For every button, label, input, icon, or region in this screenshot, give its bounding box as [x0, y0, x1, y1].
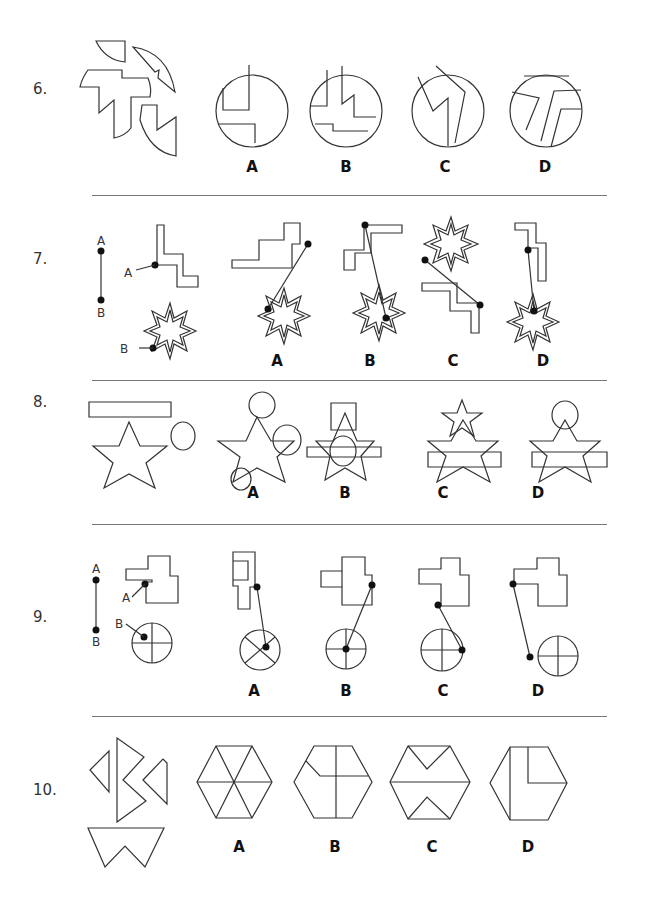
- q8-option-d-label[interactable]: D: [532, 484, 544, 502]
- q8-option-c-label[interactable]: C: [437, 484, 448, 502]
- q9-option-c: [419, 558, 469, 671]
- legend-label-b: B: [92, 635, 100, 649]
- q10-option-d: [490, 747, 567, 820]
- q7-source-shapes: A B: [120, 225, 198, 359]
- q6-pieces: [80, 41, 176, 156]
- svg-text:B: B: [115, 617, 123, 631]
- q9-option-a: [233, 552, 280, 670]
- q7-option-d-label[interactable]: D: [537, 352, 549, 370]
- q6-option-d-label[interactable]: D: [539, 158, 551, 176]
- q9-source-shapes: A B: [115, 556, 178, 663]
- q7-option-c-label[interactable]: C: [447, 352, 458, 370]
- q8-option-b-label[interactable]: B: [339, 484, 350, 502]
- q10-option-c-label[interactable]: C: [426, 838, 437, 856]
- svg-text:B: B: [120, 342, 128, 356]
- q10-option-a: [197, 746, 272, 818]
- q7-option-b: [344, 222, 405, 342]
- q9-option-c-label[interactable]: C: [437, 682, 448, 700]
- q10-pieces: [88, 738, 167, 867]
- q9-option-b-label[interactable]: B: [340, 682, 351, 700]
- legend-label-a: A: [97, 234, 106, 248]
- q7-option-a-label[interactable]: A: [271, 352, 283, 370]
- q7-option-a: [232, 223, 312, 344]
- q8-source-shapes: [89, 402, 195, 488]
- q8-option-a: [218, 392, 301, 490]
- q10-option-d-label[interactable]: D: [522, 838, 534, 856]
- q10-option-a-label[interactable]: A: [233, 838, 245, 856]
- q6-option-a: [216, 65, 288, 147]
- q6-option-c-label[interactable]: C: [439, 158, 450, 176]
- q6-option-c: [412, 66, 484, 147]
- q7-option-b-label[interactable]: B: [364, 352, 375, 370]
- q9-option-d-label[interactable]: D: [532, 682, 544, 700]
- q9-option-d: [510, 558, 579, 676]
- q10-option-b-label[interactable]: B: [329, 838, 340, 856]
- q10-option-b: [294, 746, 372, 818]
- q6-option-b: [310, 66, 382, 147]
- q7-option-d: [507, 223, 559, 350]
- q7-option-c: [422, 217, 484, 333]
- legend-label-b: B: [97, 306, 105, 320]
- q8-option-a-label[interactable]: A: [247, 484, 259, 502]
- svg-text:A: A: [124, 266, 133, 280]
- q9-option-a-label[interactable]: A: [248, 682, 260, 700]
- q9-legend-segment: A B: [92, 562, 101, 649]
- q6-option-b-label[interactable]: B: [340, 158, 351, 176]
- legend-label-a: A: [92, 562, 101, 576]
- q8-option-c: [428, 400, 501, 482]
- q7-legend-segment: A B: [97, 234, 106, 320]
- q8-option-d: [530, 401, 607, 482]
- q8-option-b: [307, 403, 381, 480]
- puzzle-figures: A B A B: [0, 0, 645, 897]
- q6-option-d: [510, 75, 582, 147]
- q10-option-c: [390, 746, 470, 819]
- q6-option-a-label[interactable]: A: [246, 158, 258, 176]
- q9-option-b: [321, 557, 376, 669]
- svg-text:A: A: [122, 591, 131, 605]
